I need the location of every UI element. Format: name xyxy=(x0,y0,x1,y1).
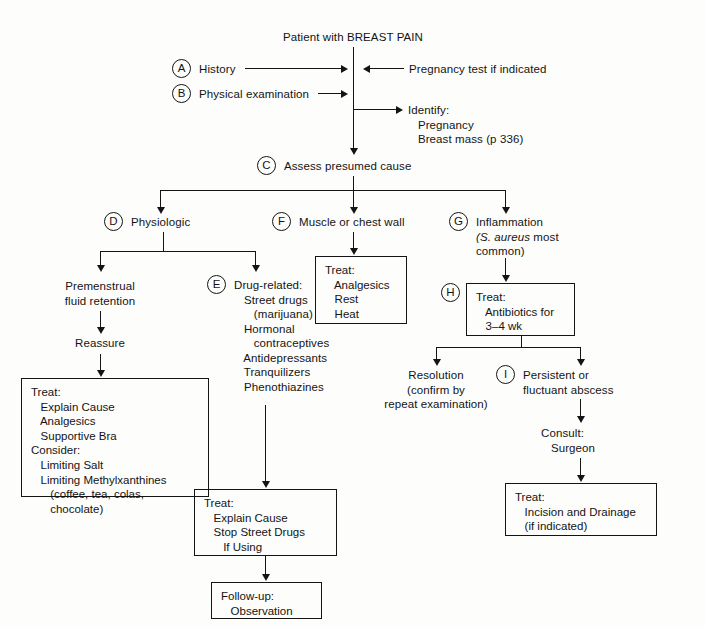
followup-text: Follow-up: Observation xyxy=(221,589,293,618)
node-sublabel-g-line2: common) xyxy=(476,244,525,259)
node-label-reassure: Reassure xyxy=(55,336,145,351)
g-italic-organism: (S. aureus xyxy=(476,231,530,243)
trunk-arrow-to-assess xyxy=(350,148,358,155)
diagram-title: Patient with BREAST PAIN xyxy=(253,30,453,45)
d-split-arrow-right xyxy=(252,265,260,272)
d-split-arrow-left xyxy=(97,265,105,272)
treat-drug-stem-line xyxy=(265,556,266,576)
treat-drug-box: Treat: Explain Cause Stop Street Drugs I… xyxy=(194,489,337,556)
treat-antibiotics-box: Treat: Antibiotics for 3–4 wk xyxy=(466,283,575,336)
node-label-b: Physical examination xyxy=(199,87,309,102)
node-marker-e: E xyxy=(207,275,226,294)
treat-incision-text: Treat: Incision and Drainage (if indicat… xyxy=(515,490,636,534)
node-marker-g: G xyxy=(449,212,468,231)
node-marker-h: H xyxy=(441,283,460,302)
node-label-pregnancy-test: Pregnancy test if indicated xyxy=(409,62,547,77)
identify-arrow-head xyxy=(396,106,403,114)
node-sublabel-g-line1: (S. aureus most xyxy=(476,230,559,245)
bus-arrow-f xyxy=(350,207,358,214)
treat-physiologic-box: Treat: Explain Cause Analgesics Supporti… xyxy=(21,378,209,497)
node-label-f: Muscle or chest wall xyxy=(299,215,405,230)
b-arrow-head xyxy=(341,90,348,98)
node-marker-c: C xyxy=(257,156,276,175)
node-label-premenstrual: Premenstrual fluid retention xyxy=(40,279,160,308)
premenstrual-arrow xyxy=(97,327,105,334)
node-marker-d: D xyxy=(104,212,123,231)
node-marker-i: I xyxy=(496,365,515,384)
g-arrow xyxy=(502,275,510,282)
identify-connector-line xyxy=(354,109,398,110)
node-marker-b: B xyxy=(172,84,191,103)
node-label-c: Assess presumed cause xyxy=(284,159,411,174)
diagram-canvas: Patient with BREAST PAIN A History Pregn… xyxy=(0,0,705,627)
i-arrow xyxy=(577,416,585,423)
node-marker-f: F xyxy=(272,212,291,231)
treat-drug-text: Treat: Explain Cause Stop Street Drugs I… xyxy=(204,496,305,554)
a-connector-line xyxy=(245,68,342,69)
bus-arrow-d xyxy=(157,207,165,214)
treat-antibiotics-text: Treat: Antibiotics for 3–4 wk xyxy=(476,290,554,334)
node-label-i: Persistent or fluctuant abscess xyxy=(523,368,614,397)
b-connector-line xyxy=(318,93,342,94)
h-split-arrow-left xyxy=(433,359,441,366)
f-arrow xyxy=(350,248,358,255)
g-sub-rest: most xyxy=(530,231,559,243)
pregnancy-test-arrow-head xyxy=(363,65,370,73)
treat-muscle-text: Treat: Analgesics Rest Heat xyxy=(325,263,390,321)
node-label-g: Inflammation xyxy=(476,215,543,230)
node-label-d: Physiologic xyxy=(131,215,190,230)
pregnancy-test-line xyxy=(370,68,404,69)
e-stem-line xyxy=(265,405,266,483)
d-split-bus xyxy=(100,251,256,252)
trunk-line-upper xyxy=(353,47,354,150)
a-arrow-head xyxy=(341,65,348,73)
node-label-a: History xyxy=(199,62,235,77)
h-split-arrow-right xyxy=(577,359,585,366)
bus-arrow-g xyxy=(502,207,510,214)
node-label-resolution: Resolution (confirm by repeat examinatio… xyxy=(379,368,493,412)
treat-incision-box: Treat: Incision and Drainage (if indicat… xyxy=(505,483,657,536)
d-stem-line xyxy=(163,232,164,252)
node-marker-a: A xyxy=(172,59,191,78)
e-arrow xyxy=(262,481,270,488)
three-way-bus-line xyxy=(160,190,506,191)
node-label-consult: Consult: Surgeon xyxy=(541,426,595,455)
c-stem-line xyxy=(353,176,354,191)
treat-physiologic-text: Treat: Explain Cause Analgesics Supporti… xyxy=(31,385,167,516)
treat-drug-arrow xyxy=(262,574,270,581)
reassure-arrow xyxy=(97,370,105,377)
consult-arrow xyxy=(577,475,585,482)
h-split-bus xyxy=(436,347,581,348)
node-label-identify: Identify: Pregnancy Breast mass (p 336) xyxy=(408,103,523,147)
followup-box: Follow-up: Observation xyxy=(211,582,322,619)
treat-muscle-box: Treat: Analgesics Rest Heat xyxy=(315,256,407,324)
